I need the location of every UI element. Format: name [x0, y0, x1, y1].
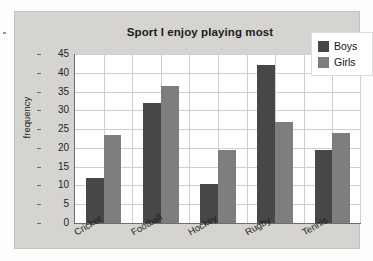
gridline-vertical [304, 54, 305, 223]
y-axis-tick-label: 5 [43, 198, 69, 209]
y-axis-tick-label: 35 [43, 86, 69, 97]
bar-football-girls [161, 86, 179, 223]
bar-hockey-girls [218, 150, 236, 223]
legend-swatch-girls-icon [318, 57, 329, 68]
y-axis-tick-label: 30 [43, 104, 69, 115]
legend-label: Boys [334, 40, 357, 52]
legend-swatch-boys-icon [318, 41, 329, 52]
y-axis-tick-mark [37, 185, 41, 186]
y-axis-tick-mark [37, 129, 41, 130]
y-axis-tick-mark [37, 167, 41, 168]
y-axis-tick-label: 45 [43, 48, 69, 59]
page-speck [3, 32, 6, 34]
y-axis-title: frequency [21, 83, 32, 153]
bar-cricket-girls [104, 135, 122, 223]
y-axis-tick-mark [37, 92, 41, 93]
y-axis-tick-mark [37, 110, 41, 111]
bar-tennis-boys [315, 150, 333, 223]
chart-title: Sport I enjoy playing most [75, 26, 325, 38]
y-axis-tick-mark [37, 73, 41, 74]
legend-item-girls[interactable]: Girls [318, 54, 368, 70]
legend-label: Girls [334, 56, 356, 68]
plot-area [74, 54, 361, 224]
chart-panel: Sport I enjoy playing most frequency 051… [15, 12, 359, 248]
bar-tennis-girls [332, 133, 350, 223]
y-axis-tick-label: 25 [43, 123, 69, 134]
y-axis-tick-label: 15 [43, 161, 69, 172]
y-axis-tick-mark [37, 204, 41, 205]
bar-rugby-boys [257, 65, 275, 223]
y-axis-tick-mark [37, 223, 41, 224]
y-axis-tick-labels: 051015202530354045 [41, 54, 69, 223]
chart-legend[interactable]: BoysGirls [311, 32, 373, 76]
bar-football-boys [143, 103, 161, 223]
gridline-vertical [247, 54, 248, 223]
page-background: Sport I enjoy playing most frequency 051… [0, 0, 373, 261]
y-axis-tick-label: 0 [43, 217, 69, 228]
gridline-vertical [132, 54, 133, 223]
y-axis-tick-mark [37, 148, 41, 149]
bar-rugby-girls [275, 122, 293, 223]
y-axis-tick-label: 10 [43, 179, 69, 190]
y-axis-tick-mark [37, 54, 41, 55]
legend-item-boys[interactable]: Boys [318, 38, 368, 54]
y-axis-tick-label: 20 [43, 142, 69, 153]
gridline-vertical [189, 54, 190, 223]
y-axis-tick-label: 40 [43, 67, 69, 78]
gridline-vertical [360, 54, 361, 223]
